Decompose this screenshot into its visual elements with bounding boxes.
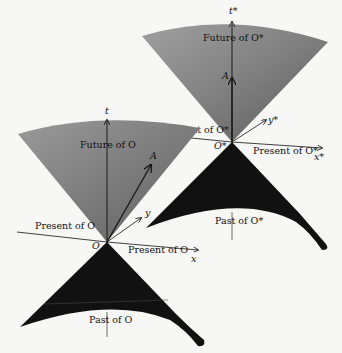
future-o-label: Future of O: [80, 139, 136, 150]
o-origin-label: O: [92, 240, 100, 251]
past-o-star-label: Past of O*: [215, 215, 263, 226]
y-star-axis-label: y*: [267, 114, 278, 125]
present-right-o-label: Present of O: [128, 244, 188, 255]
present-right-o-star-label: Present of O*: [253, 145, 318, 156]
vector-a-star-label: A: [221, 70, 229, 81]
t-star-axis-label: t*: [229, 5, 238, 16]
present-left-o-label: Present of O: [35, 220, 95, 231]
t-axis-label: t: [105, 105, 109, 116]
x-star-axis-label: x*: [314, 151, 324, 162]
light-cone-diagram: t* Future of O* A Present of O* y* O* Pr…: [0, 0, 342, 353]
frame-o: t Future of O A y Present of O O Present…: [17, 105, 204, 346]
vector-a-label: A: [149, 150, 157, 161]
x-axis-label: x: [191, 253, 197, 264]
past-cone-o: [20, 242, 204, 346]
past-o-label: Past of O: [89, 314, 133, 325]
diagram-canvas: t* Future of O* A Present of O* y* O* Pr…: [0, 0, 342, 353]
future-o-star-label: Future of O*: [203, 32, 264, 43]
o-star-origin-label: O*: [214, 140, 227, 151]
y-axis-label: y: [144, 207, 151, 218]
